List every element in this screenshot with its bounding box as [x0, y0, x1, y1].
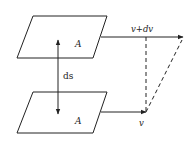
top-plane-label: A	[74, 39, 82, 49]
bottom-plane-label: A	[74, 116, 82, 126]
top-velocity-label: v+dv	[131, 24, 153, 34]
diagonal-dashed-line	[146, 40, 182, 112]
top-plane	[17, 16, 107, 58]
separation-label: ds	[63, 71, 74, 81]
shear-flow-diagram: A A ds v+dv v	[0, 0, 191, 149]
bottom-velocity-label: v	[139, 118, 144, 128]
diagram-canvas: A A ds v+dv v	[0, 0, 191, 149]
bottom-plane	[17, 92, 107, 133]
